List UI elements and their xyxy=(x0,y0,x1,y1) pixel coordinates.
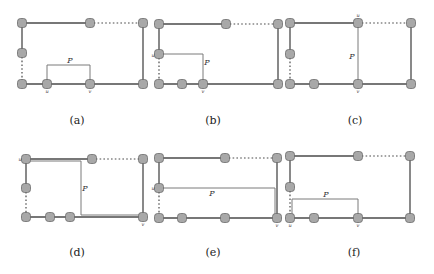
graph-node xyxy=(274,80,283,89)
graph-node xyxy=(22,155,31,164)
path-label: P xyxy=(348,52,355,61)
graph-node xyxy=(286,152,295,161)
graph-node xyxy=(286,50,295,59)
graph-node xyxy=(221,154,230,163)
graph-node xyxy=(286,183,295,192)
vertex-label-v: v xyxy=(357,88,360,94)
graph-node xyxy=(407,80,416,89)
graph-node xyxy=(155,214,164,223)
panel-caption: (a) xyxy=(69,114,84,127)
graph-node xyxy=(273,154,282,163)
graph-node xyxy=(155,154,164,163)
graph-node xyxy=(22,184,31,193)
panel-caption: (e) xyxy=(205,246,220,259)
graph-node xyxy=(286,80,295,89)
panel-caption: (b) xyxy=(205,114,221,127)
path-p xyxy=(47,65,90,84)
vertex-label-u: u xyxy=(45,88,48,94)
graph-node xyxy=(274,20,283,29)
graph-node xyxy=(406,152,415,161)
graph-node xyxy=(22,213,31,222)
panel-d: Puv(d) xyxy=(18,155,147,260)
vertex-label-v: v xyxy=(142,221,145,227)
path-label: P xyxy=(66,56,73,65)
graph-node xyxy=(406,214,415,223)
graph-node xyxy=(155,80,164,89)
graph-node xyxy=(139,80,148,89)
vertex-label-u: u xyxy=(151,185,154,191)
graph-node xyxy=(354,19,363,28)
graph-node xyxy=(18,49,27,58)
graph-node xyxy=(178,80,187,89)
vertex-label-v: v xyxy=(89,88,92,94)
vertex-label-u: u xyxy=(151,52,154,58)
graph-node xyxy=(155,50,164,59)
graph-node xyxy=(310,214,319,223)
graph-node xyxy=(18,19,27,28)
graph-node xyxy=(86,19,95,28)
graph-node xyxy=(155,20,164,29)
path-label: P xyxy=(322,190,329,199)
graph-node xyxy=(139,155,148,164)
panel-f: Puv(f) xyxy=(286,152,415,260)
path-p xyxy=(292,199,358,218)
panel-b: Puv(b) xyxy=(151,20,282,128)
graph-node xyxy=(222,20,231,29)
graph-node xyxy=(46,213,55,222)
path-label: P xyxy=(208,189,215,198)
vertex-label-u: u xyxy=(18,156,21,162)
vertex-label-v: v xyxy=(357,222,360,228)
graph-node xyxy=(88,155,97,164)
path-p xyxy=(159,188,275,218)
graph-node xyxy=(310,80,319,89)
path-label: P xyxy=(203,58,210,67)
path-label: P xyxy=(81,184,88,193)
graph-node xyxy=(354,152,363,161)
panel-caption: (c) xyxy=(348,114,363,127)
figure-canvas: Puv(a)Puv(b)Puv(c)Puv(d)Puv(e)Puv(f) xyxy=(0,0,434,274)
graph-node xyxy=(286,19,295,28)
panel-caption: (d) xyxy=(69,246,85,259)
panel-caption: (f) xyxy=(348,246,361,259)
graph-node xyxy=(66,213,75,222)
graph-node xyxy=(155,184,164,193)
vertex-label-u: u xyxy=(288,222,291,228)
vertex-label-v: v xyxy=(202,88,205,94)
graph-node xyxy=(221,214,230,223)
panel-a: Puv(a) xyxy=(18,19,148,128)
panel-c: Puv(c) xyxy=(286,12,416,127)
graph-node xyxy=(407,19,416,28)
vertex-label-v: v xyxy=(276,222,279,228)
graph-node xyxy=(18,80,27,89)
graph-node xyxy=(139,19,148,28)
panel-e: Puv(e) xyxy=(151,154,281,260)
vertex-label-u: u xyxy=(356,12,359,18)
graph-node xyxy=(178,214,187,223)
